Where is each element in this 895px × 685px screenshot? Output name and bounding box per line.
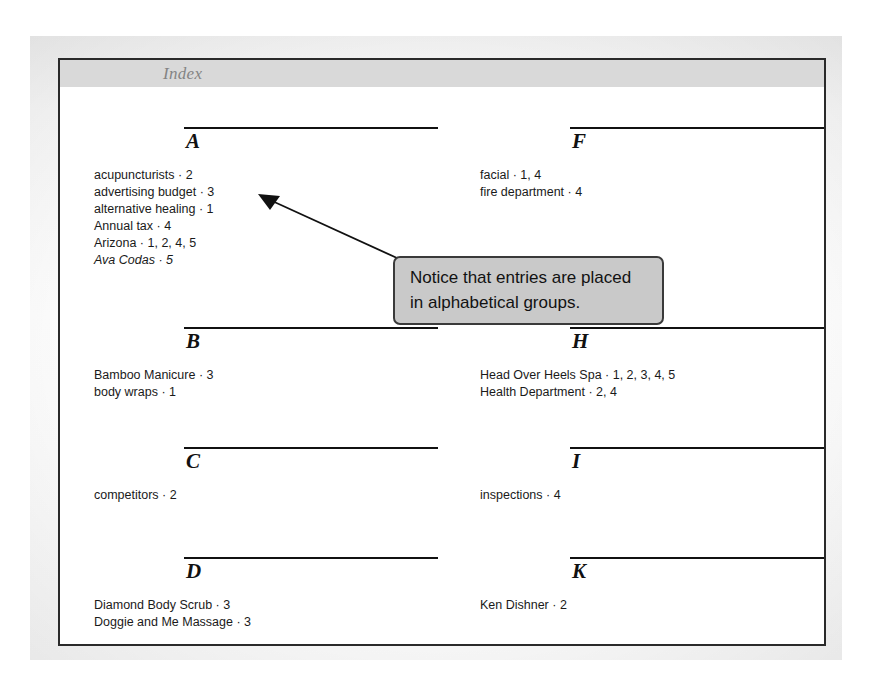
index-entry: Health Department · 2, 4 [480, 384, 826, 401]
group-rule [184, 127, 438, 129]
index-entry-list: Diamond Body Scrub · 3Doggie and Me Mass… [94, 597, 446, 631]
annotation-callout: Notice that entries are placed in alphab… [393, 256, 664, 325]
group-rule [184, 447, 438, 449]
running-head-title: Index [163, 64, 202, 84]
index-entry: Bamboo Manicure · 3 [94, 367, 446, 384]
index-entry-list: facial · 1, 4fire department · 4 [480, 167, 826, 201]
index-entry-list: Head Over Heels Spa · 1, 2, 3, 4, 5Healt… [480, 367, 826, 401]
annotation-text-line-1: Notice that entries are placed [410, 265, 650, 290]
index-entry: Arizona · 1, 2, 4, 5 [94, 235, 446, 252]
group-rule [570, 557, 824, 559]
group-letter: H [572, 331, 588, 352]
group-letter: K [572, 561, 586, 582]
index-entry: body wraps · 1 [94, 384, 446, 401]
screenshot-root: Index Aacupuncturists · 2advertising bud… [0, 0, 895, 685]
group-rule [570, 327, 824, 329]
index-entry: inspections · 4 [480, 487, 826, 504]
index-entry: competitors · 2 [94, 487, 446, 504]
group-letter: C [186, 451, 200, 472]
group-letter: I [572, 451, 580, 472]
index-entry-list: acupuncturists · 2advertising budget · 3… [94, 167, 446, 269]
index-entry-list: competitors · 2 [94, 487, 446, 504]
index-entry: alternative healing · 1 [94, 201, 446, 218]
group-letter: D [186, 561, 201, 582]
index-entry-list: inspections · 4 [480, 487, 826, 504]
index-entry: Ken Dishner · 2 [480, 597, 826, 614]
index-entry: Annual tax · 4 [94, 218, 446, 235]
index-entry: Diamond Body Scrub · 3 [94, 597, 446, 614]
index-entry: fire department · 4 [480, 184, 826, 201]
group-rule [570, 127, 824, 129]
index-entry: Doggie and Me Massage · 3 [94, 614, 446, 631]
index-page: Index Aacupuncturists · 2advertising bud… [58, 58, 826, 646]
group-rule [184, 557, 438, 559]
index-entry: advertising budget · 3 [94, 184, 446, 201]
group-rule [570, 447, 824, 449]
group-letter: A [186, 131, 200, 152]
group-letter: B [186, 331, 200, 352]
annotation-text-line-2: in alphabetical groups. [410, 290, 650, 315]
group-rule [184, 327, 438, 329]
index-entry: facial · 1, 4 [480, 167, 826, 184]
group-letter: F [572, 131, 586, 152]
running-head-band: Index [60, 60, 824, 87]
index-entry-list: Ken Dishner · 2 [480, 597, 826, 614]
index-entry-list: Bamboo Manicure · 3body wraps · 1 [94, 367, 446, 401]
index-entry: acupuncturists · 2 [94, 167, 446, 184]
index-entry: Head Over Heels Spa · 1, 2, 3, 4, 5 [480, 367, 826, 384]
index-columns: Aacupuncturists · 2advertising budget · … [60, 87, 824, 646]
